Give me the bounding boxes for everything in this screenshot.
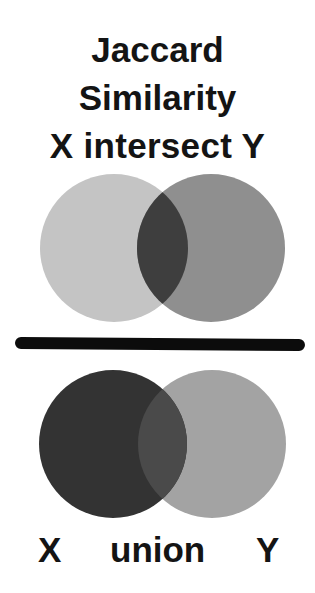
union-label-x: X <box>38 526 61 574</box>
intersection-venn <box>40 174 285 322</box>
union-label-word: union <box>110 526 205 574</box>
fraction-bar <box>15 337 305 351</box>
venn-diagrams <box>0 0 315 593</box>
union-label-y: Y <box>256 526 279 574</box>
union-venn <box>39 370 286 518</box>
